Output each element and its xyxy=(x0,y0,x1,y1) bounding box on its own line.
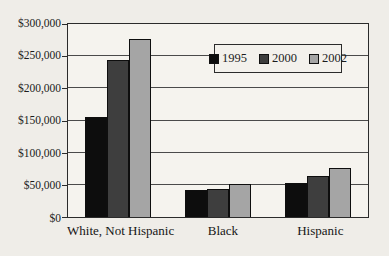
bar-2002 xyxy=(229,184,251,217)
y-tick-label: $0 xyxy=(50,212,62,224)
legend-swatch-1995-icon xyxy=(209,54,219,64)
bar-2002 xyxy=(129,39,151,217)
x-label-hispanic: Hispanic xyxy=(272,224,369,238)
bar-1995 xyxy=(85,117,107,217)
legend-item-2000: 2000 xyxy=(259,52,297,65)
y-axis-tick xyxy=(62,88,67,89)
bar-2000 xyxy=(307,176,329,217)
y-tick-label: $100,000 xyxy=(18,147,61,159)
x-label-black: Black xyxy=(174,224,271,238)
y-tick-label: $50,000 xyxy=(24,180,61,192)
y-tick-label: $300,000 xyxy=(18,17,61,29)
legend-label-2000: 2000 xyxy=(272,52,297,65)
legend-item-2002: 2002 xyxy=(309,52,347,65)
y-axis-labels: $0$50,000$100,000$150,000$200,000$250,00… xyxy=(0,23,61,218)
y-axis-tick xyxy=(62,121,67,122)
bar-1995 xyxy=(285,183,307,217)
y-axis-tick xyxy=(62,217,67,218)
legend-swatch-2000-icon xyxy=(259,54,269,64)
legend-item-1995: 1995 xyxy=(209,52,247,65)
chart-figure: $0$50,000$100,000$150,000$200,000$250,00… xyxy=(0,0,389,256)
legend: 1995 2000 2002 xyxy=(214,44,342,73)
bar-group-white-not-hispanic xyxy=(68,24,168,217)
bar-2002 xyxy=(329,168,351,217)
y-axis-tick xyxy=(62,153,67,154)
legend-label-2002: 2002 xyxy=(322,52,347,65)
x-axis-labels: White, Not Hispanic Black Hispanic xyxy=(67,224,369,238)
y-tick-label: $250,000 xyxy=(18,50,61,62)
plot-area: 1995 2000 2002 xyxy=(67,23,369,218)
y-axis-tick xyxy=(62,24,67,25)
y-tick-label: $200,000 xyxy=(18,82,61,94)
y-axis-tick xyxy=(62,185,67,186)
legend-label-1995: 1995 xyxy=(222,52,247,65)
bar-2000 xyxy=(107,60,129,217)
x-label-white-not-hispanic: White, Not Hispanic xyxy=(67,224,174,238)
legend-swatch-2002-icon xyxy=(309,54,319,64)
y-tick-label: $150,000 xyxy=(18,115,61,127)
bar-1995 xyxy=(185,190,207,217)
bar-2000 xyxy=(207,189,229,217)
y-axis-tick xyxy=(62,56,67,57)
